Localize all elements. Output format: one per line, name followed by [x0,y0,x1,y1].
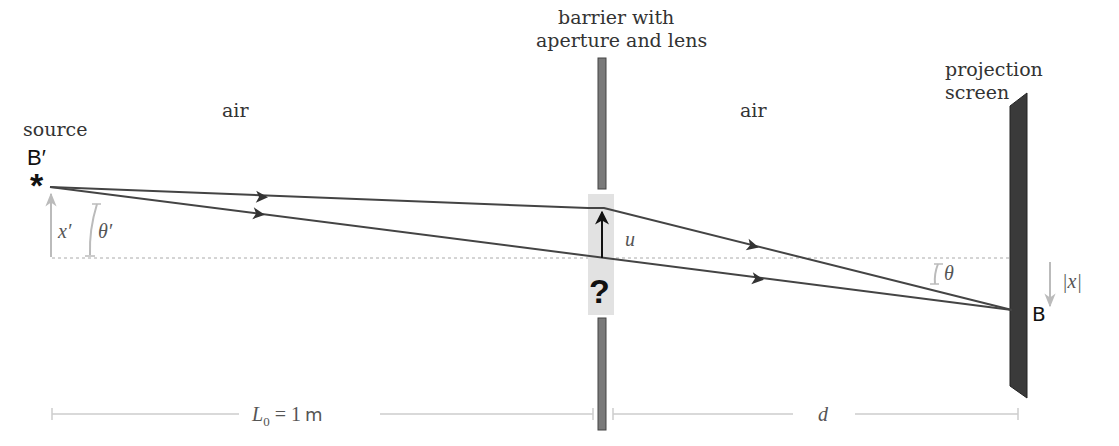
barrier-label-line1: barrier with [558,6,674,28]
screen-label-line1: projection [945,58,1043,80]
screen-label-line2: screen [945,81,1009,103]
L0-main: L [251,403,263,425]
L0-unit: m [305,404,323,425]
dimension-L0 [52,408,593,420]
image-point-label: B [1032,302,1046,326]
source-star-icon: * [30,166,44,204]
barrier-top [598,58,606,189]
theta-prime-arc [90,204,97,255]
u-label: u [625,228,635,250]
L0-label: L0 = 1m [251,403,322,429]
abs-x-label: |x| [1062,270,1082,293]
source-label: source [23,118,87,140]
rays [50,187,1012,310]
ray-arrow-icon [751,272,764,285]
air-right-label: air [740,99,767,121]
d-label: d [818,403,829,425]
dimension-d [613,408,1018,420]
barrier-bottom [598,318,606,430]
x-prime-label: x′ [57,220,72,242]
theta-label: θ [944,262,954,284]
L0-equals: = 1 [270,403,301,425]
unknown-optics-icon: ? [589,272,610,310]
source-point-label: B′ [27,145,46,170]
optics-diagram: * source B′ air air barrier with apertur… [0,0,1119,446]
ray-arrow-icon [256,191,268,203]
projection-screen [1010,93,1027,398]
air-left-label: air [222,99,249,121]
theta-prime-label: θ′ [98,220,113,242]
theta-arc [935,264,938,284]
barrier-label-line2: aperture and lens [536,29,707,51]
